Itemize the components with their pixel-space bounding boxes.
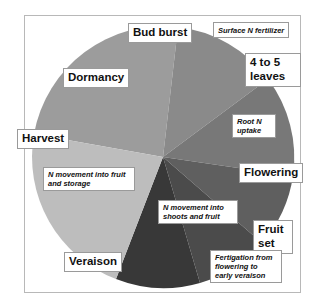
label-veraison: Veraison xyxy=(64,252,122,272)
note-n-movement-shoots-fruit: N movement into shoots and fruit xyxy=(158,200,238,224)
label-line: 4 to 5 xyxy=(250,56,296,70)
note-n-movement-fruit-storage: N movement into fruit and storage xyxy=(43,167,135,191)
note-line: and storage xyxy=(48,179,130,188)
label-line: leaves xyxy=(250,70,296,84)
note-line: flowering to xyxy=(215,262,277,271)
label-line: set xyxy=(258,237,288,251)
label-harvest: Harvest xyxy=(17,129,69,149)
label-4-to-5-leaves: 4 to 5 leaves xyxy=(245,53,301,87)
note-fertigation: Fertigation from flowering to early vera… xyxy=(210,250,282,283)
note-line: N movement into fruit xyxy=(48,170,130,179)
note-line: Root N xyxy=(237,117,271,126)
note-line: shoots and fruit xyxy=(163,212,233,221)
note-root-n-uptake: Root N uptake xyxy=(232,114,276,138)
label-flowering: Flowering xyxy=(239,163,303,183)
note-line: Fertigation from xyxy=(215,253,277,262)
note-line: uptake xyxy=(237,126,271,135)
note-surface-n-fertilizer: Surface N fertilizer xyxy=(213,22,289,38)
label-bud-burst: Bud burst xyxy=(128,23,192,43)
label-line: Fruit xyxy=(258,223,288,237)
note-line: N movement into xyxy=(163,203,233,212)
label-fruit-set: Fruit set xyxy=(253,220,293,254)
note-line: early veraison xyxy=(215,271,277,280)
label-dormancy: Dormancy xyxy=(63,68,129,88)
